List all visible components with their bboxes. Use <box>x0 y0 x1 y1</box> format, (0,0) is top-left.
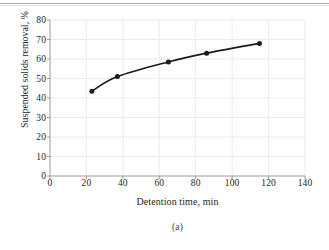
plot-area <box>50 20 305 176</box>
x-tick-label: 100 <box>217 178 247 189</box>
series-markers <box>89 41 262 94</box>
x-axis-tick-labels: 0 20 40 60 80 100 120 140 <box>50 178 305 192</box>
x-tick-label: 120 <box>254 178 284 189</box>
x-tick-label: 20 <box>71 178 101 189</box>
horizontal-gridlines <box>50 20 305 157</box>
x-axis-title: Detention time, min <box>50 196 305 207</box>
data-point <box>89 89 94 94</box>
x-tick-label: 0 <box>35 178 65 189</box>
data-point <box>204 51 209 56</box>
line-chart: 0 10 20 30 40 50 60 70 80 <box>0 0 329 250</box>
x-tick-label: 40 <box>108 178 138 189</box>
figure-caption: (a) <box>50 222 305 232</box>
data-point <box>257 41 262 46</box>
data-point <box>115 74 120 79</box>
y-axis-title: Suspended solids removal, % <box>19 0 30 155</box>
figure-root: 0 10 20 30 40 50 60 70 80 <box>0 0 329 250</box>
x-tick-label: 140 <box>290 178 320 189</box>
plot-canvas <box>50 20 305 176</box>
data-point <box>166 59 171 64</box>
x-tick-label: 80 <box>181 178 211 189</box>
x-tick-label: 60 <box>144 178 174 189</box>
series-line <box>92 43 260 91</box>
